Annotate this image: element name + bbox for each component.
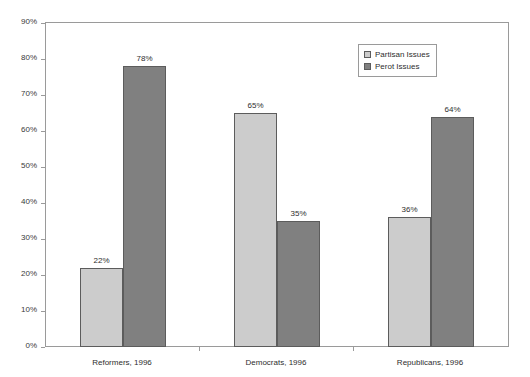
legend-swatch-perot-issues: [364, 63, 371, 70]
y-tick-mark: [41, 239, 45, 240]
x-axis: Reformers, 1996Democrats, 1996Republican…: [45, 347, 509, 377]
y-tick-mark: [41, 203, 45, 204]
y-tick-label: 90%: [21, 17, 37, 27]
legend: Partisan Issues Perot Issues: [358, 44, 437, 77]
bar-chart: 0%10%20%30%40%50%60%70%80%90% 22%78%65%3…: [0, 0, 530, 377]
bars-layer: 22%78%65%35%36%64%: [46, 23, 508, 347]
x-category-label: Democrats, 1996: [199, 357, 353, 368]
x-category-label: Republicans, 1996: [353, 357, 507, 368]
y-tick-mark: [41, 131, 45, 132]
y-tick-label: 40%: [21, 197, 37, 207]
x-category-label: Reformers, 1996: [45, 357, 199, 368]
legend-item: Partisan Issues: [364, 49, 430, 60]
bar-value-label: 22%: [80, 256, 123, 266]
bar: [431, 117, 474, 347]
bar: [123, 66, 166, 347]
y-axis: 0%10%20%30%40%50%60%70%80%90%: [0, 22, 45, 348]
y-tick-mark: [41, 275, 45, 276]
x-tick-mark: [199, 347, 200, 351]
bar-value-label: 35%: [277, 209, 320, 219]
y-tick-mark: [41, 23, 45, 24]
y-tick-mark: [41, 59, 45, 60]
y-tick-label: 20%: [21, 269, 37, 279]
y-tick-label: 70%: [21, 89, 37, 99]
y-tick-mark: [41, 167, 45, 168]
bar: [234, 113, 277, 347]
y-tick-mark: [41, 95, 45, 96]
legend-label: Perot Issues: [375, 62, 419, 72]
bar-value-label: 65%: [234, 101, 277, 111]
bar: [80, 268, 123, 347]
y-tick-label: 80%: [21, 53, 37, 63]
bar-value-label: 78%: [123, 54, 166, 64]
legend-label: Partisan Issues: [375, 50, 430, 60]
legend-swatch-partisan-issues: [364, 51, 371, 58]
bar: [277, 221, 320, 347]
bar: [388, 217, 431, 347]
x-tick-mark: [353, 347, 354, 351]
y-tick-mark: [41, 311, 45, 312]
y-tick-label: 60%: [21, 125, 37, 135]
y-tick-label: 10%: [21, 305, 37, 315]
y-tick-label: 30%: [21, 233, 37, 243]
legend-item: Perot Issues: [364, 61, 430, 72]
bar-value-label: 36%: [388, 205, 431, 215]
bar-value-label: 64%: [431, 105, 474, 115]
y-tick-label: 0%: [25, 341, 37, 351]
y-tick-label: 50%: [21, 161, 37, 171]
